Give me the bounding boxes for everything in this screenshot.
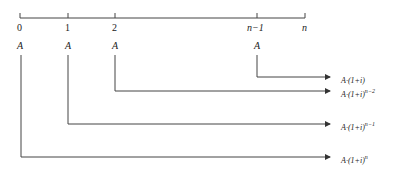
tick-label-1: 1 (65, 23, 70, 33)
tick-label-0: 0 (17, 23, 22, 33)
tick-label-n-minus-1: n−1 (247, 23, 264, 33)
result-0: A·(1+i)n (341, 152, 368, 166)
tick-label-n: n (302, 23, 307, 33)
diagram-lines (0, 0, 395, 170)
result-n-minus-1: A·(1+i) (341, 72, 365, 86)
payment-label-1: A (65, 41, 71, 51)
tick-label-2: 2 (112, 23, 117, 33)
result-2: A·(1+i)n−2 (341, 86, 375, 100)
payment-label-0: A (17, 41, 23, 51)
payment-label-2: A (112, 41, 118, 51)
result-1: A·(1+i)n−1 (341, 119, 375, 133)
payment-label-n-minus-1: A (254, 41, 260, 51)
